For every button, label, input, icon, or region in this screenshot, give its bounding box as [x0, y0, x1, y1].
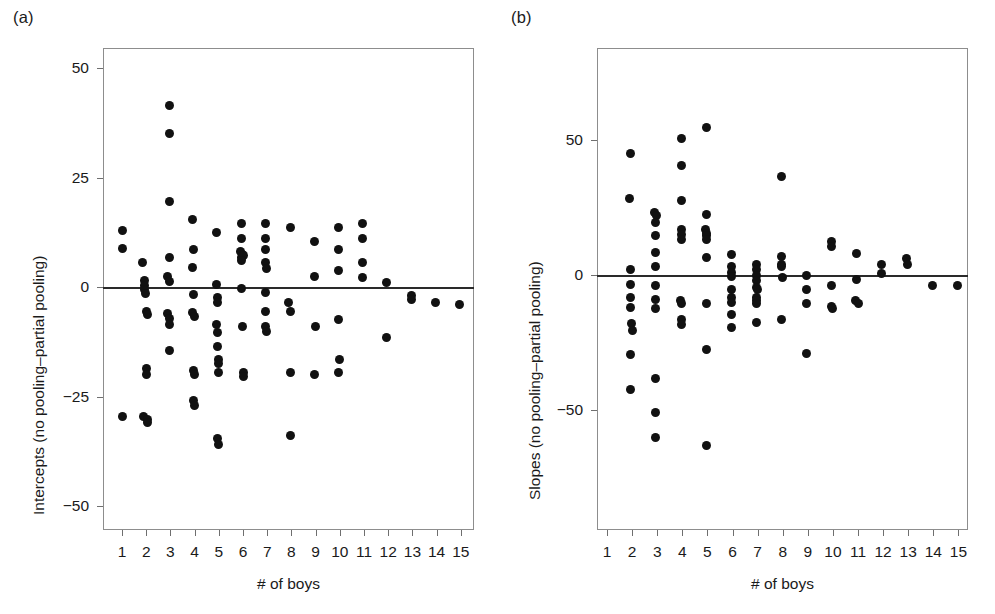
scatter-point	[431, 298, 440, 307]
scatter-point	[802, 349, 811, 358]
scatter-point	[334, 266, 343, 275]
x-tick-mark	[707, 530, 708, 536]
scatter-point	[702, 210, 711, 219]
scatter-point	[188, 263, 197, 272]
scatter-point	[727, 250, 736, 259]
scatter-point	[286, 368, 295, 377]
x-tick-mark	[682, 530, 683, 536]
panel-b: (b) Slopes (no pooling–partial pooling) …	[498, 0, 995, 614]
scatter-point	[903, 260, 912, 269]
scatter-point	[702, 345, 711, 354]
scatter-point	[702, 235, 711, 244]
scatter-point	[651, 218, 660, 227]
scatter-point	[310, 272, 319, 281]
scatter-point	[628, 326, 637, 335]
scatter-point	[677, 235, 686, 244]
x-tick-mark	[316, 530, 317, 536]
scatter-point	[310, 237, 319, 246]
scatter-point	[213, 342, 222, 351]
y-tick-mark	[591, 140, 597, 141]
y-tick-label: −50	[41, 498, 89, 514]
scatter-point	[165, 277, 174, 286]
scatter-point	[677, 320, 686, 329]
scatter-point	[165, 346, 174, 355]
scatter-point	[752, 299, 761, 308]
y-tick-mark	[97, 506, 103, 507]
scatter-point	[727, 310, 736, 319]
y-tick-label: 50	[41, 60, 89, 76]
scatter-point	[777, 315, 786, 324]
scatter-point	[165, 101, 174, 110]
scatter-point	[118, 226, 127, 235]
y-tick-label: 0	[535, 267, 583, 283]
y-tick-mark	[97, 397, 103, 398]
scatter-point	[190, 401, 199, 410]
scatter-point	[852, 275, 861, 284]
scatter-point	[238, 322, 247, 331]
panel-a-plot-area	[103, 48, 474, 530]
x-tick-mark	[243, 530, 244, 536]
scatter-point	[625, 194, 634, 203]
scatter-point	[334, 368, 343, 377]
y-tick-mark	[591, 410, 597, 411]
scatter-point	[651, 433, 660, 442]
scatter-point	[651, 248, 660, 257]
x-tick-mark	[412, 530, 413, 536]
y-tick-mark	[97, 178, 103, 179]
scatter-point	[727, 298, 736, 307]
panel-b-x-axis-label: # of boys	[597, 575, 968, 593]
scatter-point	[190, 312, 199, 321]
panel-a-x-axis-label: # of boys	[103, 575, 474, 593]
x-tick-mark	[267, 530, 268, 536]
scatter-point	[677, 196, 686, 205]
x-tick-mark	[388, 530, 389, 536]
scatter-point	[702, 123, 711, 132]
x-tick-mark	[808, 530, 809, 536]
scatter-point	[778, 273, 787, 282]
scatter-point	[118, 412, 127, 421]
y-tick-label: 0	[41, 279, 89, 295]
scatter-point	[286, 223, 295, 232]
zero-reference-line	[103, 287, 474, 289]
x-tick-mark	[933, 530, 934, 536]
scatter-point	[802, 271, 811, 280]
x-tick-mark	[291, 530, 292, 536]
x-tick-mark	[632, 530, 633, 536]
panel-b-label: (b)	[511, 8, 532, 27]
x-tick-mark	[657, 530, 658, 536]
scatter-point	[677, 134, 686, 143]
x-tick-mark	[758, 530, 759, 536]
x-tick-mark	[219, 530, 220, 536]
x-tick-mark	[170, 530, 171, 536]
scatter-point	[854, 299, 863, 308]
y-tick-label: −50	[535, 402, 583, 418]
scatter-point	[239, 372, 248, 381]
x-tick-mark	[733, 530, 734, 536]
scatter-point	[143, 310, 152, 319]
scatter-point	[928, 281, 937, 290]
x-tick-mark	[195, 530, 196, 536]
scatter-point	[165, 129, 174, 138]
y-tick-label: 50	[535, 132, 583, 148]
scatter-point	[286, 307, 295, 316]
panel-a-y-axis-label: Intercepts (no pooling–partial pooling)	[30, 256, 48, 515]
x-tick-mark	[461, 530, 462, 536]
x-tick-mark	[146, 530, 147, 536]
x-tick-mark	[883, 530, 884, 536]
x-tick-label: 15	[938, 544, 978, 560]
x-tick-mark	[607, 530, 608, 536]
scatter-point	[141, 289, 150, 298]
scatter-point	[802, 299, 811, 308]
scatter-point	[702, 441, 711, 450]
x-tick-mark	[958, 530, 959, 536]
scatter-point	[212, 228, 221, 237]
x-tick-mark	[858, 530, 859, 536]
scatter-point	[727, 272, 736, 281]
scatter-point	[310, 370, 319, 379]
scatter-point	[188, 215, 197, 224]
scatter-point	[877, 260, 886, 269]
scatter-point	[142, 370, 151, 379]
x-tick-mark	[783, 530, 784, 536]
x-tick-mark	[908, 530, 909, 536]
x-tick-mark	[340, 530, 341, 536]
